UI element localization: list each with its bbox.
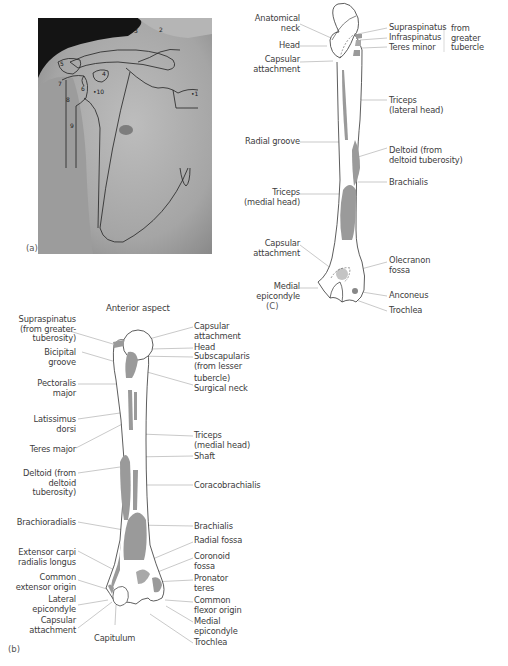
label-olecranon-fossa: Olecranon fossa bbox=[389, 256, 430, 275]
label-common-flexor-origin: Common flexor origin bbox=[194, 596, 242, 615]
label-pronator-teres: Pronator teres bbox=[194, 574, 228, 593]
label-anatomical-neck: Anatomical neck bbox=[255, 14, 300, 33]
label-deltoid-c: Deltoid (from deltoid tuberosity) bbox=[389, 146, 463, 165]
label-triceps-medial-head-c: Triceps (medial head) bbox=[244, 188, 300, 207]
label-medial-epicondyle-c: Medial epicondyle bbox=[256, 282, 300, 301]
label-pectoralis-major: Pectoralis major bbox=[37, 379, 76, 398]
label-capsular-attachment-c2: Capsular attachment bbox=[253, 239, 300, 258]
label-deltoid-b: Deltoid (from deltoid tuberosity) bbox=[23, 469, 76, 498]
label-head: Head bbox=[279, 41, 300, 51]
label-coronoid-fossa: Coronoid fossa bbox=[194, 552, 230, 571]
label-triceps-lateral-head: Triceps (lateral head) bbox=[389, 96, 443, 115]
label-teres-major: Teres major bbox=[30, 445, 76, 455]
label-medial-epicondyle-b: Medial epicondyle bbox=[194, 617, 238, 636]
label-surgical-neck: Surgical neck bbox=[194, 384, 248, 394]
panel-b-title: Anterior aspect bbox=[106, 304, 170, 314]
label-shaft: Shaft bbox=[194, 452, 215, 462]
label-capitulum: Capitulum bbox=[94, 634, 135, 644]
label-trochlea-c: Trochlea bbox=[389, 306, 422, 316]
label-anconeus: Anconeus bbox=[389, 291, 428, 301]
label-subscapularis: Subscapularis (from lesser bbox=[194, 352, 250, 371]
label-capsular-attachment-b-left: Capsular attachment bbox=[29, 616, 76, 635]
label-coracobrachialis: Coracobrachialis bbox=[194, 481, 261, 491]
label-capsular-attachment-c: Capsular attachment bbox=[253, 55, 300, 74]
label-trochlea-b: Trochlea bbox=[194, 638, 227, 648]
label-supraspinatus-b: Supraspinatus (from greater- tuberosity) bbox=[19, 315, 76, 344]
label-triceps-medial-head-b: Triceps (medial head) bbox=[194, 431, 250, 450]
label-teres-minor: Teres minor bbox=[389, 43, 436, 53]
label-radial-groove: Radial groove bbox=[245, 137, 300, 147]
label-extensor-carpi-radialis-longus: Extensor carpi radialis longus bbox=[18, 548, 76, 567]
label-brachialis-c: Brachialis bbox=[389, 178, 428, 188]
label-from-greater-tubercle: from greater tubercle bbox=[451, 24, 484, 53]
label-latissimus-dorsi: Latissimus dorsi bbox=[34, 415, 76, 434]
panel-c-label: (C) bbox=[266, 301, 279, 311]
panel-b-label: (b) bbox=[8, 644, 20, 654]
posterior-humerus bbox=[318, 3, 365, 302]
label-radial-fossa: Radial fossa bbox=[194, 536, 242, 546]
label-common-extensor-origin: Common extensor origin bbox=[16, 573, 76, 592]
label-lateral-epicondyle: Lateral epicondyle bbox=[32, 595, 76, 614]
label-capsular-attachment-b: Capsular attachment bbox=[194, 322, 241, 341]
label-bicipital-groove: Bicipital groove bbox=[44, 348, 76, 367]
label-brachialis-b: Brachialis bbox=[194, 522, 233, 532]
label-brachioradialis: Brachioradialis bbox=[17, 518, 76, 528]
